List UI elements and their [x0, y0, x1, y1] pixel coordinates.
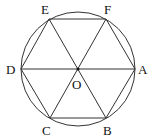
label-e: E [41, 2, 49, 17]
label-c: C [42, 123, 51, 138]
label-b: B [103, 123, 112, 138]
hexagon-inscribed-circle-diagram: ABCDEFO [0, 0, 153, 139]
segment-cd [21, 69, 50, 118]
segment-ab [106, 69, 135, 118]
label-a: A [138, 62, 148, 77]
center-point-o [77, 68, 80, 71]
segment-fa [106, 19, 135, 69]
label-f: F [104, 2, 111, 17]
segment-de [21, 19, 49, 69]
label-d: D [6, 62, 15, 77]
label-o: O [72, 77, 81, 92]
